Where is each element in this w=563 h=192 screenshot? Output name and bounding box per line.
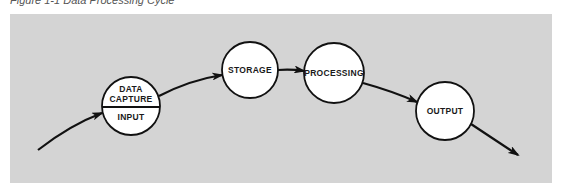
node-storage: STORAGE	[222, 42, 278, 98]
node-processing-label: PROCESSING	[304, 68, 364, 78]
arrow-processing-to-output	[363, 83, 417, 102]
node-input: DATA CAPTURE INPUT	[102, 77, 160, 135]
node-input-label-line2: CAPTURE	[109, 94, 152, 104]
arrow-start-to-input	[38, 113, 102, 150]
node-storage-label: STORAGE	[228, 65, 272, 75]
node-input-label-bottom: INPUT	[118, 112, 146, 122]
arrow-input-to-storage	[159, 75, 222, 96]
node-output: OUTPUT	[416, 82, 474, 140]
node-input-label-line1: DATA	[119, 84, 143, 94]
data-processing-cycle-diagram: DATA CAPTURE INPUT STORAGE PROCESSING OU…	[0, 0, 563, 192]
node-output-label: OUTPUT	[427, 106, 464, 116]
node-processing: PROCESSING	[304, 43, 364, 103]
arrow-output-to-end	[471, 124, 518, 155]
arrow-storage-to-processing	[278, 70, 304, 71]
